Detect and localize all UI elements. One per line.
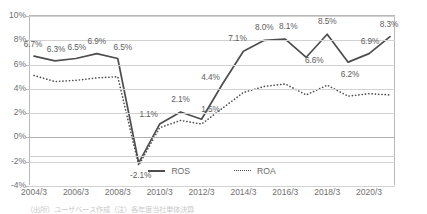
x-tick-label: 2020/3: [356, 187, 382, 197]
y-tick-label: 0%: [0, 131, 26, 141]
x-tick-label: 2008/3: [105, 187, 131, 197]
data-label-2008/3: 6.5%: [113, 42, 132, 52]
data-label-2012/3: 1.5%: [201, 104, 220, 114]
y-tick-label: 6%: [0, 59, 26, 69]
data-label-2017/3: 6.6%: [305, 55, 324, 65]
gridline-6: [29, 65, 395, 66]
y-tick-mark: [26, 137, 29, 138]
data-label-2006/3: 6.5%: [68, 42, 87, 52]
gridline--2: [29, 162, 395, 163]
y-tick-mark: [26, 162, 29, 163]
data-label-2016/3: 8.1%: [279, 21, 298, 31]
data-label-2004/3: 6.7%: [24, 39, 43, 49]
data-label-2015/3: 8.0%: [255, 22, 274, 32]
y-tick-mark: [26, 89, 29, 90]
data-label-2014/3: 7.1%: [228, 33, 247, 43]
y-tick-label: -2%: [0, 156, 26, 166]
gridline-10: [29, 16, 395, 17]
data-label-2011/3: 2.1%: [171, 94, 190, 104]
y-tick-mark: [26, 65, 29, 66]
data-label-2020/3: 6.9%: [361, 36, 380, 46]
y-tick-label: 8%: [0, 34, 26, 44]
x-tick-label: 2018/3: [314, 187, 340, 197]
y-tick-label: 10%: [0, 10, 26, 20]
plot-area: [29, 15, 395, 185]
data-label-2019/3: 6.2%: [341, 69, 360, 79]
ros-series-line: [34, 34, 390, 163]
y-tick-mark: [26, 113, 29, 114]
x-tick-label: 2010/3: [147, 187, 173, 197]
gridline-0: [29, 137, 395, 138]
y-tick-label: 4%: [0, 83, 26, 93]
source-caption: （出所）ユーザベース作成（注）各年度当社単体決算: [26, 203, 194, 214]
x-tick-label: 2016/3: [272, 187, 298, 197]
y-tick-label: 2%: [0, 107, 26, 117]
x-tick-label: 2014/3: [230, 187, 256, 197]
x-tick-label: 2012/3: [189, 187, 215, 197]
data-label-2009/3: -2.1%: [130, 170, 151, 180]
data-label-2005/3: 6.3%: [47, 44, 66, 54]
x-tick-label: 2006/3: [63, 187, 89, 197]
data-label-2007/3: 6.9%: [88, 36, 107, 46]
data-label-2021/3: 8.3%: [380, 19, 399, 29]
x-tick-label: 2004/3: [21, 187, 47, 197]
data-label-2010/3: 1.1%: [139, 109, 158, 119]
data-label-2018/3: 8.5%: [318, 16, 337, 26]
data-label-2013/3: 4.4%: [201, 72, 220, 82]
gridline-4: [29, 89, 395, 90]
chart-figure: 10%8%6%4%2%0%-2%-4% 2004/32006/32008/320…: [0, 0, 427, 214]
y-tick-mark: [26, 16, 29, 17]
